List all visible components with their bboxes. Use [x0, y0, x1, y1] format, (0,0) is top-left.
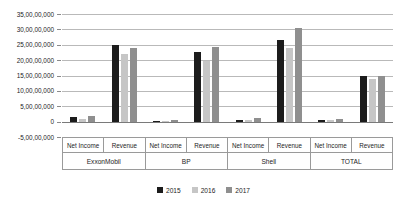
y-tick-label: 5,00,00,000	[0, 103, 54, 110]
metric-label: Net Income	[228, 138, 269, 153]
metric-label: Net Income	[62, 138, 104, 153]
bar	[254, 118, 261, 122]
metric-label: Net Income	[146, 138, 187, 153]
metric-subgroup	[310, 14, 351, 122]
y-tick-mark	[57, 60, 61, 61]
bar	[286, 48, 293, 121]
y-tick-label: 25,00,00,000	[0, 41, 54, 48]
company-label: ExxonMobil	[62, 153, 146, 169]
y-tick-label: 15,00,00,000	[0, 72, 54, 79]
metric-subgroup	[103, 14, 144, 122]
legend-label: 2016	[201, 187, 216, 194]
bar	[203, 61, 210, 122]
metric-label: Revenue	[352, 138, 393, 153]
plot-area	[62, 14, 393, 137]
company-label-row: ExxonMobilBPShellTOTAL	[62, 152, 393, 170]
bar	[162, 121, 169, 122]
company-group	[62, 14, 145, 137]
company-group	[228, 14, 311, 137]
y-tick-label: 30,00,00,000	[0, 26, 54, 33]
y-tick-mark	[57, 45, 61, 46]
bar	[318, 120, 325, 122]
bar	[378, 76, 385, 122]
metric-label: Revenue	[269, 138, 310, 153]
y-tick-mark	[57, 29, 61, 30]
bar	[245, 120, 252, 122]
chart-legend: 201520162017	[0, 183, 407, 197]
bar	[369, 79, 376, 122]
metric-subgroup	[62, 14, 103, 122]
legend-swatch-icon	[157, 187, 163, 193]
legend-swatch-icon	[226, 187, 232, 193]
bar	[360, 76, 367, 122]
bar	[112, 45, 119, 122]
y-tick-label: 20,00,00,000	[0, 57, 54, 64]
legend-item[interactable]: 2016	[192, 187, 216, 194]
legend-label: 2015	[166, 187, 181, 194]
metric-label: Net Income	[311, 138, 352, 153]
y-tick-label: 10,00,00,000	[0, 87, 54, 94]
legend-label: 2017	[235, 187, 250, 194]
bar	[79, 119, 86, 121]
company-label: TOTAL	[311, 153, 394, 169]
company-group	[145, 14, 228, 137]
metric-subgroup	[228, 14, 269, 122]
y-tick-mark	[57, 91, 61, 92]
bar	[121, 54, 128, 122]
bar	[336, 119, 343, 121]
bar	[153, 121, 160, 122]
bar	[194, 52, 201, 121]
company-label: Shell	[228, 153, 311, 169]
bar	[327, 120, 334, 122]
bar	[277, 40, 284, 121]
y-tick-label: -5,00,00,000	[0, 134, 54, 141]
legend-item[interactable]: 2017	[226, 187, 250, 194]
y-tick-label: 0	[0, 118, 54, 125]
y-tick-mark	[57, 106, 61, 107]
metric-subgroup	[352, 14, 393, 122]
bar	[212, 47, 219, 122]
bar	[236, 120, 243, 121]
bar-groups	[62, 14, 393, 137]
metric-label: Revenue	[187, 138, 228, 153]
metric-label: Revenue	[104, 138, 145, 153]
legend-item[interactable]: 2015	[157, 187, 181, 194]
bar	[70, 117, 77, 122]
metric-label-row: Net IncomeRevenueNet IncomeRevenueNet In…	[62, 137, 393, 153]
bar	[295, 28, 302, 122]
grouped-bar-chart: 35,00,00,00030,00,00,00025,00,00,00020,0…	[0, 0, 407, 205]
legend-swatch-icon	[192, 187, 198, 193]
metric-subgroup	[269, 14, 310, 122]
category-axis: Net IncomeRevenueNet IncomeRevenueNet In…	[62, 137, 393, 168]
y-tick-mark	[57, 137, 61, 138]
metric-subgroup	[186, 14, 227, 122]
company-label: BP	[146, 153, 229, 169]
y-tick-mark	[57, 14, 61, 15]
y-tick-mark	[57, 122, 61, 123]
bar	[130, 48, 137, 122]
company-group	[310, 14, 393, 137]
y-tick-mark	[57, 76, 61, 77]
y-tick-label: 35,00,00,000	[0, 11, 54, 18]
bar	[88, 116, 95, 122]
metric-subgroup	[145, 14, 186, 122]
bar	[171, 120, 178, 121]
